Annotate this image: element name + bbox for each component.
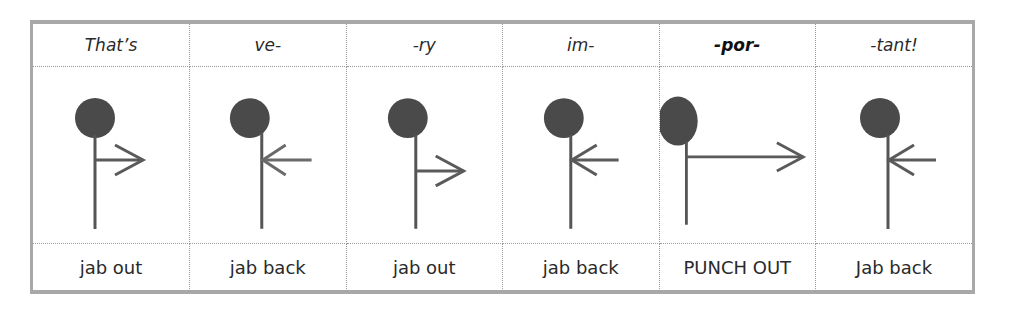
action-label: jab back	[543, 257, 619, 278]
action-label: jab out	[80, 257, 143, 278]
syllable-label: -tant!	[870, 35, 917, 55]
action-cell-4: jab back	[503, 243, 660, 291]
action-cell-1: jab out	[33, 243, 190, 291]
stick-figure-jab-back-icon	[816, 67, 972, 243]
action-label: Jab back	[856, 257, 932, 278]
action-cell-5: PUNCH OUT	[659, 243, 816, 291]
figure-cell-4	[503, 66, 660, 243]
figure-cell-1	[33, 66, 190, 243]
action-label: jab out	[393, 257, 456, 278]
stick-figure-jab-out-icon	[33, 67, 189, 243]
action-cell-3: jab out	[346, 243, 503, 291]
stick-figure-punch-out-icon	[660, 67, 816, 243]
syllable-label: ve-	[254, 35, 281, 55]
figure-row	[33, 66, 972, 243]
action-row: jab out jab back jab out jab back PUNCH …	[33, 243, 972, 291]
syllable-cell-6: -tant!	[816, 24, 973, 66]
syllable-row: That’s ve- -ry im- -por- -tant!	[33, 24, 972, 66]
figure-cell-5	[659, 66, 816, 243]
syllable-cell-3: -ry	[346, 24, 503, 66]
stick-figure-jab-out-icon	[347, 67, 503, 243]
syllable-cell-1: That’s	[33, 24, 190, 66]
syllable-cell-5: -por-	[659, 24, 816, 66]
syllable-label: That’s	[85, 35, 138, 55]
stick-figure-jab-back-icon	[190, 67, 346, 243]
action-cell-2: jab back	[190, 243, 347, 291]
action-cell-6: Jab back	[816, 243, 973, 291]
figure-cell-3	[346, 66, 503, 243]
stick-figure-jab-back-icon	[503, 67, 659, 243]
rhythm-gesture-table: That’s ve- -ry im- -por- -tant!	[33, 24, 972, 291]
action-label: PUNCH OUT	[683, 257, 791, 278]
syllable-label: im-	[567, 35, 594, 55]
syllable-cell-2: ve-	[190, 24, 347, 66]
figure-cell-6	[816, 66, 973, 243]
syllable-cell-4: im-	[503, 24, 660, 66]
figure-cell-2	[190, 66, 347, 243]
stressed-syllable-label: -por-	[714, 35, 760, 55]
action-label: jab back	[230, 257, 306, 278]
syllable-label: -ry	[413, 35, 436, 55]
